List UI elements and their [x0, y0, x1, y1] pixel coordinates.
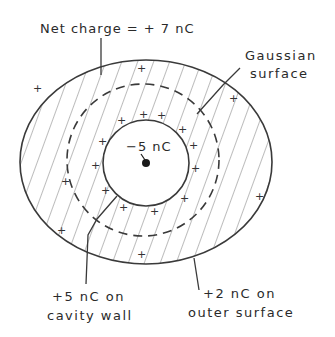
- point-charge-dot: [142, 159, 150, 167]
- svg-text:+: +: [33, 82, 42, 95]
- point-charge-label: −5 nC: [126, 139, 172, 154]
- svg-text:+: +: [98, 135, 107, 148]
- svg-text:+: +: [255, 190, 264, 203]
- outer-label-line2: outer surface: [188, 305, 294, 320]
- svg-text:+: +: [117, 114, 126, 127]
- svg-text:+: +: [139, 108, 148, 121]
- svg-text:+: +: [180, 192, 189, 205]
- svg-text:+: +: [91, 159, 100, 172]
- svg-text:+: +: [189, 139, 198, 152]
- svg-text:+: +: [178, 123, 187, 136]
- svg-text:+: +: [137, 62, 146, 75]
- net-charge-label: Net charge = + 7 nC: [40, 21, 195, 36]
- gaussian-label-line2: surface: [250, 66, 309, 81]
- outer-label-line1: +2 nC on: [203, 286, 276, 301]
- svg-text:+: +: [229, 92, 238, 105]
- svg-text:+: +: [137, 248, 146, 261]
- svg-text:+: +: [150, 205, 159, 218]
- gaussian-label-line1: Gaussian: [245, 48, 317, 63]
- svg-text:+: +: [157, 109, 166, 122]
- svg-text:+: +: [57, 224, 66, 237]
- svg-text:+: +: [191, 162, 200, 175]
- cavity-label-line1: +5 nC on: [52, 289, 125, 304]
- svg-text:+: +: [119, 201, 128, 214]
- svg-text:+: +: [61, 175, 70, 188]
- svg-text:+: +: [101, 184, 110, 197]
- cavity-label-line2: cavity wall: [47, 308, 133, 323]
- diagram-canvas: −5 nC + + + + + + + + + + + + + + + + + …: [0, 0, 335, 337]
